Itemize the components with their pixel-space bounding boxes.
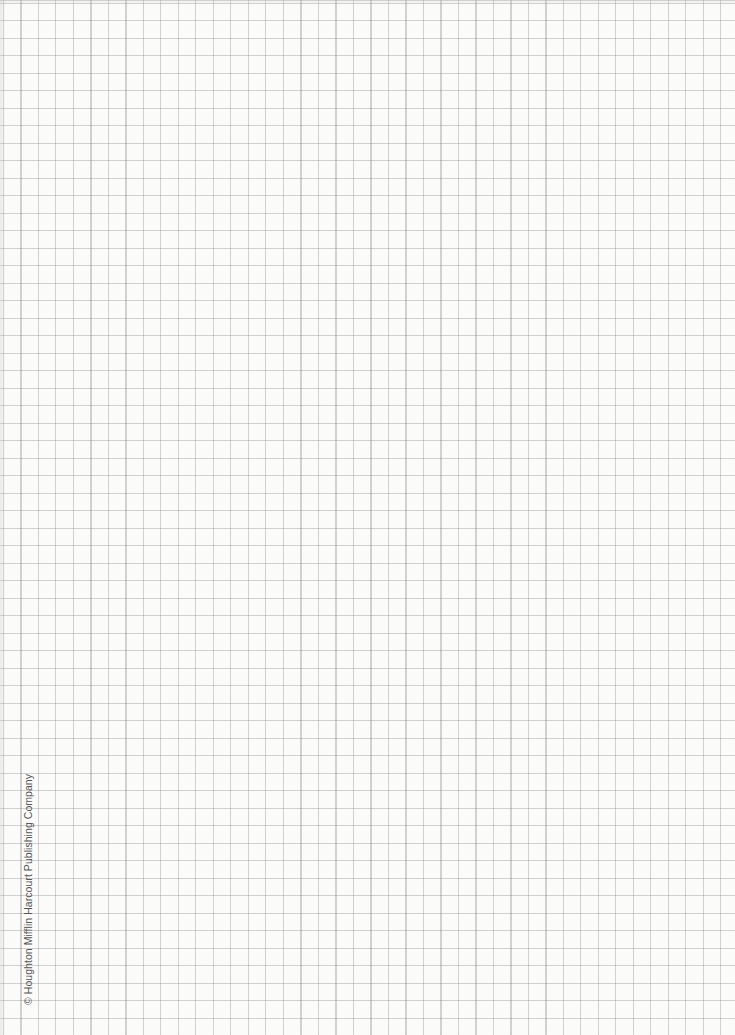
graph-paper-page: © Houghton Mifflin Harcourt Publishing C… [0,0,735,1035]
page-top-edge [0,0,735,4]
page-left-edge [0,0,6,1035]
copyright-notice: © Houghton Mifflin Harcourt Publishing C… [22,774,34,1005]
